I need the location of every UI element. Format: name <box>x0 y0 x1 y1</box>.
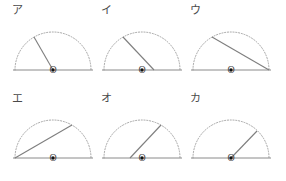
panel-label: ア <box>12 4 23 17</box>
panel-e: エ O <box>8 92 98 180</box>
panel-label: エ <box>12 92 23 105</box>
figure-sheet: ア O イ O ウ O エ O オ O カ O <box>0 0 286 181</box>
panel-o: オ O <box>97 92 187 180</box>
origin-label: O <box>97 64 187 76</box>
panel-label: カ <box>190 92 201 105</box>
panel-ka: カ O <box>186 92 276 180</box>
panel-label: オ <box>101 92 112 105</box>
panel-i: イ O <box>97 4 187 92</box>
origin-label: O <box>97 152 187 164</box>
panel-label: ウ <box>190 4 201 17</box>
panel-a: ア O <box>8 4 98 92</box>
origin-label: O <box>186 152 276 164</box>
panel-label: イ <box>101 4 112 17</box>
origin-label: O <box>8 152 98 164</box>
panel-u: ウ O <box>186 4 276 92</box>
origin-label: O <box>186 64 276 76</box>
origin-label: O <box>8 64 98 76</box>
